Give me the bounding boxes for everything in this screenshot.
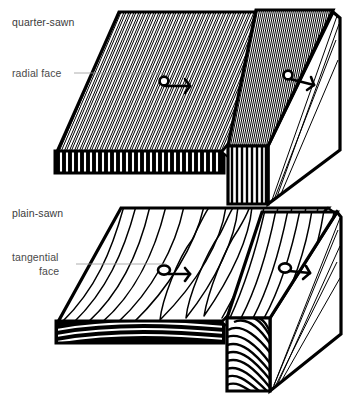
quarter-sawn-flat-end-grain [61, 150, 217, 174]
tangential-face-label-line1: tangential [12, 251, 59, 263]
tangential-face-label-line2: face [39, 265, 59, 277]
quarter-sawn-label: quarter-sawn [12, 16, 75, 28]
plain-sawn-label: plain-sawn [12, 207, 63, 219]
diagram-canvas: quarter-sawn radial face plain-sawn tang… [0, 0, 343, 404]
radial-face-label: radial face [12, 67, 62, 79]
wood-grain-diagram: quarter-sawn radial face plain-sawn tang… [0, 0, 343, 404]
